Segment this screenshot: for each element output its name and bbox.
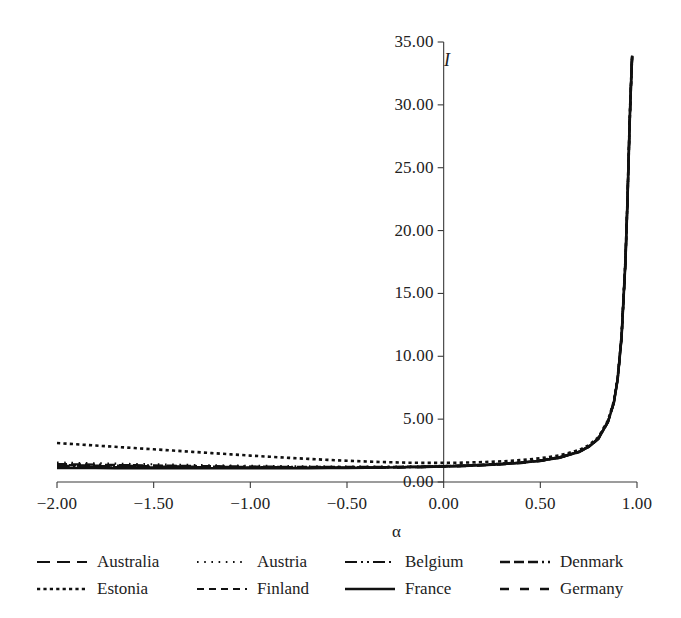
y-tick-label-2: 10.00	[394, 347, 433, 364]
x-tick-label-5: 0.50	[495, 495, 585, 512]
legend-item-france[interactable]: France	[344, 575, 499, 602]
series-line-france	[57, 56, 632, 468]
legend-item-denmark[interactable]: Denmark	[499, 548, 649, 575]
y-tick-label-3: 15.00	[394, 284, 433, 301]
legend-item-austria[interactable]: Austria	[196, 548, 344, 575]
legend-swatch-spaced-dash-icon	[499, 582, 551, 596]
x-tick-label-6: 1.00	[592, 495, 681, 512]
legend-swatch-long-dash-icon	[36, 555, 88, 569]
plot-svg	[0, 0, 681, 545]
series-line-estonia	[57, 55, 632, 463]
legend-label: Estonia	[97, 580, 148, 597]
legend-row: AustraliaAustriaBelgiumDenmark	[0, 548, 681, 575]
series-line-denmark	[57, 56, 632, 467]
legend-item-australia[interactable]: Australia	[36, 548, 196, 575]
legend-swatch-sparse-dot-icon	[196, 555, 248, 569]
legend-item-estonia[interactable]: Estonia	[36, 575, 196, 602]
x-tick-label-0: −2.00	[12, 495, 102, 512]
legend-label: Germany	[560, 580, 623, 597]
x-tick-label-4: 0.00	[399, 495, 489, 512]
x-axis-label-text: α	[392, 522, 401, 541]
series-line-finland	[57, 56, 632, 468]
y-tick-label-7: 35.00	[394, 33, 433, 50]
legend-swatch-dash-dot-dot-icon	[344, 555, 396, 569]
x-tick-label-3: −0.50	[302, 495, 392, 512]
legend-item-belgium[interactable]: Belgium	[344, 548, 499, 575]
y-tick-label-6: 30.00	[394, 96, 433, 113]
series-line-germany	[57, 56, 632, 468]
y-tick-label-0: 0.00	[403, 473, 434, 490]
chart-legend: AustraliaAustriaBelgiumDenmarkEstoniaFin…	[0, 548, 681, 612]
y-axis-label: I	[444, 50, 450, 71]
axes	[57, 42, 637, 488]
series-line-belgium	[57, 56, 632, 468]
plot-area: 0.005.0010.0015.0020.0025.0030.0035.00 −…	[0, 0, 681, 545]
legend-item-finland[interactable]: Finland	[196, 575, 344, 602]
legend-item-germany[interactable]: Germany	[499, 575, 649, 602]
series-lines	[57, 55, 632, 468]
chart-figure: 0.005.0010.0015.0020.0025.0030.0035.00 −…	[0, 0, 681, 618]
legend-swatch-solid-icon	[344, 582, 396, 596]
legend-swatch-short-dash-icon	[196, 582, 248, 596]
legend-label: France	[405, 580, 451, 597]
legend-label: Finland	[257, 580, 309, 597]
x-tick-label-1: −1.50	[109, 495, 199, 512]
legend-row: EstoniaFinlandFranceGermany	[0, 575, 681, 602]
legend-label: Austria	[257, 553, 307, 570]
y-tick-label-1: 5.00	[403, 410, 434, 427]
legend-label: Belgium	[405, 553, 464, 570]
y-tick-label-5: 25.00	[394, 159, 433, 176]
x-tick-label-2: −1.00	[205, 495, 295, 512]
legend-label: Denmark	[560, 553, 623, 570]
y-tick-label-4: 20.00	[394, 222, 433, 239]
legend-swatch-fine-dot-icon	[36, 582, 88, 596]
series-line-australia	[57, 56, 632, 468]
legend-swatch-dash-dash-dot-icon	[499, 555, 551, 569]
x-axis-label: α	[0, 522, 681, 542]
series-line-austria	[57, 55, 632, 466]
legend-label: Australia	[97, 553, 159, 570]
